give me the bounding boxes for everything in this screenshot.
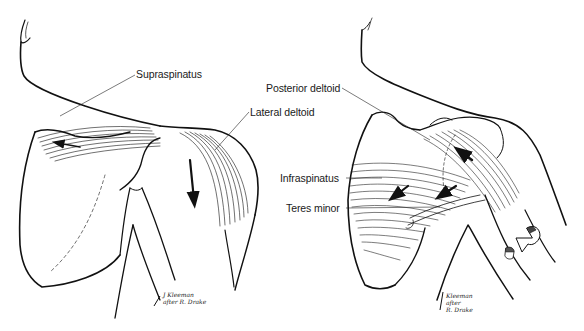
label-infraspinatus: Infraspinatus — [280, 172, 339, 184]
right-signature-stroke — [440, 292, 443, 310]
right-signature-line1: Kleeman — [446, 292, 473, 299]
left-signature-stroke — [154, 296, 160, 306]
shoulder-anatomy-figure: Supraspinatus Lateral deltoid Posterior … — [0, 0, 584, 331]
right-signature-line2: after — [446, 299, 473, 306]
left-signature-line2: after R. Drake — [163, 298, 206, 305]
right-shoulder-view — [348, 18, 566, 300]
left-leader-lines — [60, 75, 249, 150]
left-signature-line1: J Kleeman — [163, 291, 206, 298]
label-posterior-deltoid: Posterior deltoid — [266, 82, 340, 94]
illustration-artwork — [0, 0, 584, 331]
right-signature: Kleeman after R. Drake — [446, 292, 473, 313]
label-lateral-deltoid: Lateral deltoid — [250, 106, 314, 118]
left-signature: J Kleeman after R. Drake — [163, 291, 206, 305]
left-shoulder-view — [20, 20, 259, 318]
label-supraspinatus: Supraspinatus — [136, 68, 202, 80]
right-signature-line3: R. Drake — [446, 306, 473, 313]
label-teres-minor: Teres minor — [286, 202, 340, 214]
